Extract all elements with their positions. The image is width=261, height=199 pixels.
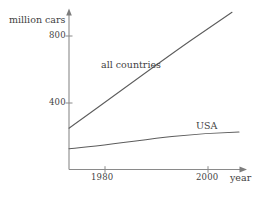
y-tick-label-400: 400 [49,98,66,107]
x-tick-label-1980: 1980 [91,173,113,182]
series-label-all-countries: all countries [101,60,161,70]
x-axis-title: year [230,173,251,183]
series-line-all-countries [69,12,232,128]
x-tick-label-2000: 2000 [196,173,218,182]
series-label-usa: USA [196,121,217,131]
y-axis-arrow-icon [66,9,72,16]
chart-figure: million cars 800 400 1980 2000 year all … [0,0,261,199]
y-axis-title: million cars [9,15,65,25]
series-line-usa [69,132,239,149]
plot-area [0,0,261,199]
y-tick-label-800: 800 [49,31,66,40]
